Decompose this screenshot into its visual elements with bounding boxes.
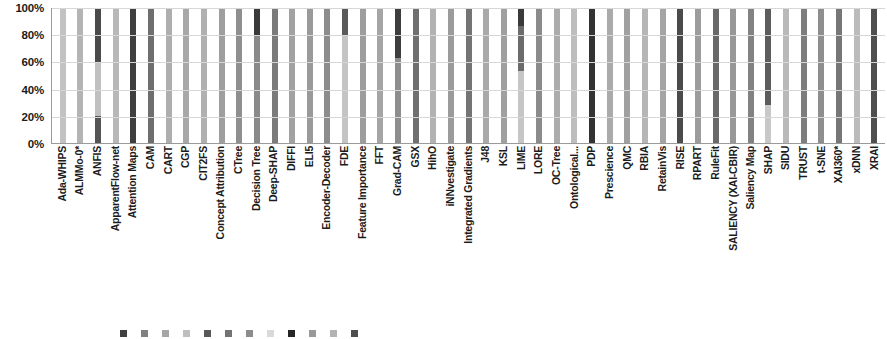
- bar-segment[interactable]: [324, 8, 330, 143]
- stacked-bar[interactable]: [289, 8, 295, 143]
- stacked-bar[interactable]: [219, 8, 225, 143]
- bar-segment[interactable]: [289, 8, 295, 143]
- stacked-bar[interactable]: [377, 8, 383, 143]
- stacked-bar[interactable]: [871, 8, 877, 143]
- stacked-bar[interactable]: [695, 8, 701, 143]
- bar-segment[interactable]: [660, 8, 666, 143]
- legend-item[interactable]: [351, 330, 361, 337]
- bar-segment[interactable]: [730, 8, 736, 143]
- bar-column[interactable]: [830, 8, 848, 143]
- bar-column[interactable]: [636, 8, 654, 143]
- bar-column[interactable]: [619, 8, 637, 143]
- stacked-bar[interactable]: [607, 8, 613, 143]
- stacked-bar[interactable]: [818, 8, 824, 143]
- bar-column[interactable]: [389, 8, 407, 143]
- stacked-bar[interactable]: [95, 8, 101, 143]
- bar-column[interactable]: [160, 8, 178, 143]
- stacked-bar[interactable]: [854, 8, 860, 143]
- stacked-bar[interactable]: [642, 8, 648, 143]
- bar-segment[interactable]: [642, 8, 648, 143]
- bar-segment[interactable]: [518, 71, 524, 143]
- bar-segment[interactable]: [466, 8, 472, 143]
- bar-column[interactable]: [142, 8, 160, 143]
- bar-segment[interactable]: [501, 8, 507, 143]
- stacked-bar[interactable]: [272, 8, 278, 143]
- stacked-bar[interactable]: [148, 8, 154, 143]
- bar-segment[interactable]: [236, 8, 242, 143]
- legend-item[interactable]: [246, 330, 256, 337]
- stacked-bar[interactable]: [201, 8, 207, 143]
- bar-segment[interactable]: [783, 8, 789, 143]
- bar-segment[interactable]: [518, 26, 524, 72]
- stacked-bar[interactable]: [130, 8, 136, 143]
- bar-segment[interactable]: [130, 8, 136, 143]
- legend-item[interactable]: [120, 330, 130, 337]
- bar-column[interactable]: [654, 8, 672, 143]
- bar-segment[interactable]: [219, 8, 225, 143]
- stacked-bar[interactable]: [660, 8, 666, 143]
- stacked-bar[interactable]: [713, 8, 719, 143]
- bar-segment[interactable]: [395, 8, 401, 58]
- stacked-bar[interactable]: [413, 8, 419, 143]
- legend-item[interactable]: [183, 330, 193, 337]
- bar-column[interactable]: [724, 8, 742, 143]
- stacked-bar[interactable]: [536, 8, 542, 143]
- bar-column[interactable]: [601, 8, 619, 143]
- bar-segment[interactable]: [836, 8, 842, 143]
- bar-segment[interactable]: [77, 8, 83, 143]
- bar-column[interactable]: [266, 8, 284, 143]
- bar-column[interactable]: [760, 8, 778, 143]
- stacked-bar[interactable]: [730, 8, 736, 143]
- bar-column[interactable]: [530, 8, 548, 143]
- bar-segment[interactable]: [518, 8, 524, 26]
- stacked-bar[interactable]: [254, 8, 260, 143]
- bar-segment[interactable]: [183, 8, 189, 143]
- bar-column[interactable]: [319, 8, 337, 143]
- bar-column[interactable]: [513, 8, 531, 143]
- stacked-bar[interactable]: [60, 8, 66, 143]
- bar-segment[interactable]: [818, 8, 824, 143]
- bar-column[interactable]: [54, 8, 72, 143]
- bar-column[interactable]: [495, 8, 513, 143]
- bar-column[interactable]: [777, 8, 795, 143]
- bar-column[interactable]: [195, 8, 213, 143]
- bar-column[interactable]: [107, 8, 125, 143]
- bar-column[interactable]: [301, 8, 319, 143]
- bar-segment[interactable]: [113, 8, 119, 143]
- bar-segment[interactable]: [448, 8, 454, 143]
- bar-column[interactable]: [795, 8, 813, 143]
- bar-segment[interactable]: [307, 8, 313, 143]
- stacked-bar[interactable]: [307, 8, 313, 143]
- stacked-bar[interactable]: [113, 8, 119, 143]
- bar-segment[interactable]: [554, 8, 560, 143]
- bar-column[interactable]: [848, 8, 866, 143]
- bar-segment[interactable]: [871, 8, 877, 143]
- stacked-bar[interactable]: [571, 8, 577, 143]
- stacked-bar[interactable]: [483, 8, 489, 143]
- legend-item[interactable]: [225, 330, 235, 337]
- bar-segment[interactable]: [677, 8, 683, 143]
- bar-column[interactable]: [460, 8, 478, 143]
- stacked-bar[interactable]: [430, 8, 436, 143]
- bar-segment[interactable]: [430, 8, 436, 143]
- stacked-bar[interactable]: [677, 8, 683, 143]
- stacked-bar[interactable]: [395, 8, 401, 143]
- stacked-bar[interactable]: [765, 8, 771, 143]
- bar-segment[interactable]: [854, 8, 860, 143]
- legend-item[interactable]: [267, 330, 277, 337]
- legend-item[interactable]: [162, 330, 172, 337]
- legend-item[interactable]: [141, 330, 151, 337]
- bar-column[interactable]: [424, 8, 442, 143]
- bar-column[interactable]: [566, 8, 584, 143]
- bar-segment[interactable]: [713, 8, 719, 143]
- stacked-bar[interactable]: [342, 8, 348, 143]
- bar-segment[interactable]: [254, 8, 260, 35]
- stacked-bar[interactable]: [501, 8, 507, 143]
- stacked-bar[interactable]: [801, 8, 807, 143]
- bar-column[interactable]: [89, 8, 107, 143]
- bar-column[interactable]: [213, 8, 231, 143]
- stacked-bar[interactable]: [360, 8, 366, 143]
- bar-segment[interactable]: [95, 116, 101, 143]
- bar-segment[interactable]: [589, 8, 595, 143]
- bar-segment[interactable]: [360, 8, 366, 143]
